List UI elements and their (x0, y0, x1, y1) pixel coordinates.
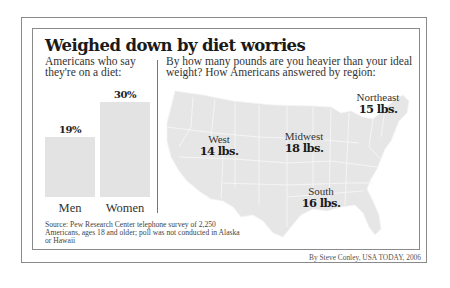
bar-men (45, 137, 95, 197)
region-west: West 14 lbs. (196, 134, 242, 158)
bar-label-women: Women (100, 201, 150, 216)
region-value-northeast: 15 lbs. (348, 103, 408, 116)
region-value-south: 16 lbs. (296, 197, 346, 210)
panel-divider (157, 60, 158, 213)
region-northeast: Northeast 15 lbs. (348, 92, 408, 116)
right-subtitle: By how many pounds are you heavier than … (166, 56, 421, 78)
source-note: Source: Pew Research Center telephone su… (45, 221, 240, 245)
region-value-west: 14 lbs. (196, 145, 242, 158)
region-south: South 16 lbs. (296, 186, 346, 210)
region-value-midwest: 18 lbs. (277, 142, 331, 155)
bar-value-women: 30% (100, 89, 150, 100)
bar-value-men: 19% (45, 124, 95, 135)
byline: By Steve Conley, USA TODAY, 2006 (309, 253, 421, 262)
bar-label-men: Men (45, 201, 95, 216)
bar-women (100, 102, 150, 197)
region-midwest: Midwest 18 lbs. (277, 131, 331, 155)
left-subtitle: Americans who say they're on a diet: (45, 56, 155, 78)
chart-title: Weighed down by diet worries (45, 36, 305, 55)
